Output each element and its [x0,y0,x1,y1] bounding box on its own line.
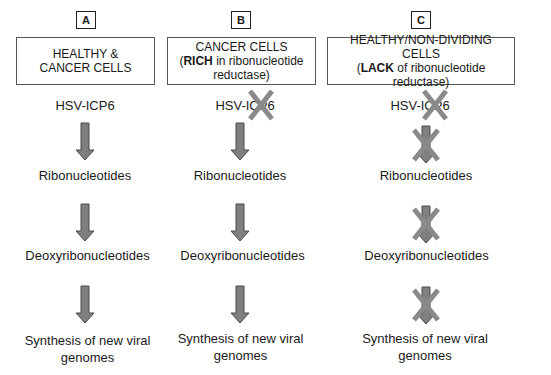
synthesis-c-line1: Synthesis of new viral [345,330,505,347]
step-synthesis-c: Synthesis of new viral genomes [345,330,505,364]
step-deoxyribonucleotides-a: Deoxyribonucleotides [10,248,165,263]
arrow-down-icon [74,122,96,162]
synthesis-b-line1: Synthesis of new viral [163,330,318,347]
synthesis-c-line2: genomes [345,347,505,364]
header-box-b: CANCER CELLS (RICH in ribonucleotide red… [167,37,316,85]
header-b-line1: CANCER CELLS [170,40,313,54]
step-synthesis-a: Synthesis of new viral genomes [10,332,165,366]
step-hsv-icp6-a: HSV-ICP6 [45,98,125,113]
header-box-a: HEALTHY & CANCER CELLS [16,37,155,85]
step-synthesis-b: Synthesis of new viral genomes [163,330,318,364]
blocked-cross-icon [247,88,275,122]
blocked-cross-icon [421,88,449,122]
header-c-line2: (LACK of ribonucleotide [330,61,512,75]
header-a-line1: HEALTHY & [19,47,152,61]
header-c-line1: HEALTHY/NON-DIVIDING CELLS [330,33,512,61]
blocked-cross-icon [411,127,441,163]
header-b-line3: reductase) [170,68,313,82]
synthesis-b-line2: genomes [163,347,318,364]
header-c-line3: reductase) [330,75,512,89]
step-ribonucleotides-a: Ribonucleotides [20,168,150,183]
blocked-cross-icon [411,206,441,242]
header-b-line2: (RICH in ribonucleotide [170,54,313,68]
synthesis-a-line1: Synthesis of new viral [10,332,165,349]
step-ribonucleotides-b: Ribonucleotides [175,168,305,183]
label-c: C [411,11,431,29]
step-deoxyribonucleotides-b: Deoxyribonucleotides [165,248,320,263]
arrow-down-icon [229,122,251,162]
header-box-c: HEALTHY/NON-DIVIDING CELLS (LACK of ribo… [327,37,515,85]
synthesis-a-line2: genomes [10,349,165,366]
arrow-down-icon [74,285,96,325]
arrow-down-icon [74,203,96,243]
label-b: B [231,11,251,29]
step-ribonucleotides-c: Ribonucleotides [361,168,491,183]
arrow-down-icon [229,203,251,243]
label-a: A [76,11,96,29]
step-deoxyribonucleotides-c: Deoxyribonucleotides [349,248,504,263]
arrow-down-icon [229,285,251,325]
blocked-cross-icon [411,287,441,323]
header-a-line2: CANCER CELLS [19,61,152,75]
